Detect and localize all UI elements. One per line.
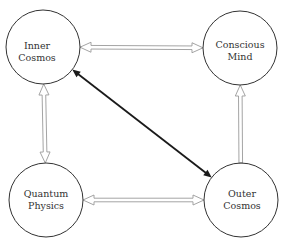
arrow-inner-conscious xyxy=(80,42,203,53)
node-circle-outer-cosmos xyxy=(204,163,278,237)
arrow-outer-conscious xyxy=(235,85,245,163)
arrow-inner-quantum xyxy=(39,84,50,163)
node-circle-conscious-mind xyxy=(203,11,277,85)
arrow-quantum-outer xyxy=(83,195,204,205)
concept-diagram xyxy=(0,0,291,239)
node-circle-quantum-physics xyxy=(9,163,83,237)
edges-layer xyxy=(39,42,245,205)
node-circle-inner-cosmos xyxy=(6,10,80,84)
arrow-inner-outer xyxy=(72,70,211,178)
